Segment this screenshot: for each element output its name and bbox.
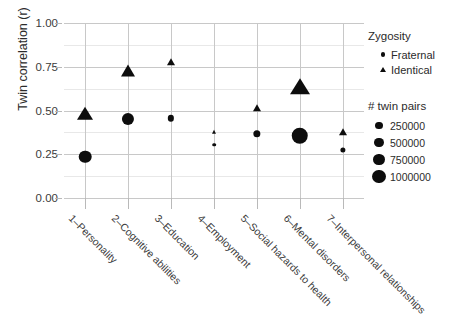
size-legend-title: # twin pairs	[368, 100, 460, 112]
x-axis-tick-labels: 1–Personality2–Cognitive abilities3–Educ…	[64, 198, 364, 308]
circle-marker-icon	[368, 170, 390, 183]
data-point-circle-2	[122, 113, 134, 125]
zygosity-legend-items: FraternalIdentical	[368, 47, 460, 77]
size-legend-item-750000[interactable]: 750000	[368, 151, 460, 168]
data-point-circle-4	[212, 143, 216, 147]
circle-marker-icon	[375, 52, 391, 57]
gridline-vertical	[128, 23, 129, 198]
data-point-triangle-6	[290, 78, 310, 94]
circle-marker-icon	[368, 138, 390, 147]
legend-marker-shape	[374, 138, 383, 147]
legend-item-label: Fraternal	[391, 49, 435, 61]
legend-item-label: Identical	[391, 64, 432, 76]
gridline-vertical	[214, 23, 215, 198]
legend-item-identical[interactable]: Identical	[368, 62, 460, 77]
twin-pairs-size-legend: # twin pairs 2500005000007500001000000	[368, 100, 460, 185]
circle-marker-icon	[368, 122, 390, 129]
data-point-circle-1	[79, 151, 92, 164]
triangle-marker-icon	[375, 67, 391, 72]
legend-marker-shape	[372, 170, 385, 183]
gridline-vertical	[300, 23, 301, 198]
y-axis-tick-label: 0.75	[16, 61, 58, 73]
legend-marker-shape	[373, 154, 384, 165]
size-legend-item-500000[interactable]: 500000	[368, 134, 460, 151]
data-point-circle-6	[291, 128, 308, 145]
data-point-circle-7	[340, 147, 345, 152]
y-axis-tick-label: 0.25	[16, 148, 58, 160]
legend-marker-shape	[381, 52, 386, 57]
y-axis-tick-label: 1.00	[16, 17, 58, 29]
size-legend-item-label: 1000000	[390, 171, 431, 183]
data-point-circle-5	[253, 130, 260, 137]
data-point-triangle-1	[77, 107, 93, 120]
y-axis-tick-mark	[55, 67, 62, 68]
gridline-vertical	[343, 23, 344, 198]
circle-marker-icon	[368, 154, 390, 165]
data-point-triangle-2	[121, 65, 135, 77]
y-axis-tick-mark	[55, 198, 62, 199]
legend-marker-shape	[380, 67, 386, 72]
y-axis-tick-mark	[55, 23, 62, 24]
size-legend-item-label: 750000	[390, 154, 425, 166]
data-point-triangle-7	[339, 129, 347, 136]
size-legend-item-250000[interactable]: 250000	[368, 117, 460, 134]
legend-marker-shape	[375, 122, 382, 129]
y-axis-tick-label: 0.00	[16, 192, 58, 204]
size-legend-item-label: 500000	[390, 137, 425, 149]
plot-area	[64, 23, 364, 198]
data-point-triangle-3	[167, 58, 175, 65]
size-legend-item-1000000[interactable]: 1000000	[368, 168, 460, 185]
y-axis-tick-mark	[55, 111, 62, 112]
zygosity-legend-title: Zygosity	[368, 30, 460, 42]
y-axis-tick-labels: 0.000.250.500.751.00	[10, 23, 58, 198]
gridline-vertical	[171, 23, 172, 198]
y-axis-tick-mark	[55, 154, 62, 155]
size-legend-item-label: 250000	[390, 120, 425, 132]
size-legend-items: 2500005000007500001000000	[368, 117, 460, 185]
y-axis-tick-label: 0.50	[16, 105, 58, 117]
data-point-triangle-5	[253, 104, 261, 111]
data-point-triangle-4	[212, 130, 216, 134]
zygosity-legend: Zygosity FraternalIdentical	[368, 30, 460, 77]
twin-correlation-scatter-chart: Twin correlation (r) 0.000.250.500.751.0…	[0, 0, 460, 321]
data-point-circle-3	[168, 115, 174, 121]
legend-item-fraternal[interactable]: Fraternal	[368, 47, 460, 62]
